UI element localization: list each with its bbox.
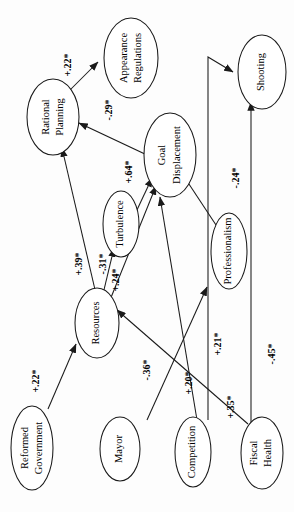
edge-label-fiscal-health-to-resources: +.35* <box>225 395 236 418</box>
edge-label-competition-to-shooting: +.21* <box>212 332 223 355</box>
node-label-fiscal-health-line1: Fiscal <box>248 440 259 465</box>
edge-label-rational-planning-to-appearance-regulations: +.22* <box>62 53 73 76</box>
node-label-rational-planning-line1: Rational <box>40 99 51 135</box>
edge-label-resources-to-rational-planning: +.39* <box>73 252 84 275</box>
edge-label-competition-to-goal-displacement: +.20* <box>183 371 194 394</box>
node-mayor[interactable]: Mayor <box>100 417 140 481</box>
node-label-reformed-government-line2: Government <box>33 422 44 475</box>
node-label-rational-planning-line2: Planning <box>54 98 65 136</box>
edge-label-goal-displacement-to-rational-planning: -.29* <box>103 100 114 121</box>
path-diagram-figure: Appearance Regulations Shooting Rational… <box>0 0 294 512</box>
node-label-goal-displacement-line1: Goal <box>156 145 167 165</box>
node-professionalism[interactable]: Professionalism <box>211 213 247 289</box>
node-label-professionalism-line1: Professionalism <box>222 217 233 284</box>
node-label-appearance-regulations-line1: Appearance <box>118 33 129 83</box>
node-label-mayor-line1: Mayor <box>113 435 124 463</box>
node-label-appearance-regulations-line2: Regulations <box>132 33 143 83</box>
node-label-shooting-line1: Shooting <box>255 52 266 91</box>
edge-label-professionalism-to-goal-displacement: -.24* <box>230 168 241 189</box>
edge-reformed-government-to-resources <box>48 344 76 409</box>
node-appearance-regulations[interactable]: Appearance Regulations <box>104 18 158 98</box>
node-label-goal-displacement-line2: Displacement <box>171 126 182 184</box>
edge-turbulence-to-goal-displacement <box>136 178 152 212</box>
node-fiscal-health[interactable]: Fiscal Health <box>241 417 283 489</box>
node-competition[interactable]: Competition <box>175 417 211 487</box>
node-shooting[interactable]: Shooting <box>238 35 286 109</box>
node-turbulence[interactable]: Turbulence <box>103 191 139 257</box>
node-resources[interactable]: Resources <box>75 288 119 358</box>
edge-label-reformed-government-to-resources: +.22* <box>30 369 41 392</box>
edge-label-resources-to-goal-displacement: +.24* <box>110 268 121 291</box>
node-label-resources-line1: Resources <box>90 301 101 344</box>
edge-label-resources-to-turbulence: -.31* <box>97 254 108 275</box>
node-label-reformed-government-line1: Reformed <box>19 426 30 469</box>
path-diagram-canvas: Appearance Regulations Shooting Rational… <box>0 0 294 512</box>
edge-mayor-to-professionalism <box>147 287 207 420</box>
node-label-turbulence-line1: Turbulence <box>114 200 125 248</box>
node-rational-planning[interactable]: Rational Planning <box>27 79 79 155</box>
node-label-competition-line1: Competition <box>186 425 197 478</box>
edge-label-turbulence-to-goal-displacement: +.64* <box>123 160 134 183</box>
node-reformed-government[interactable]: Reformed Government <box>11 406 53 490</box>
node-goal-displacement[interactable]: Goal Displacement <box>144 113 196 197</box>
edge-label-mayor-to-professionalism: -.36* <box>141 360 152 381</box>
edge-goal-displacement-to-rational-planning <box>79 123 147 155</box>
edge-label-fiscal-health-to-shooting: -.45* <box>266 344 277 365</box>
node-label-fiscal-health-line2: Health <box>262 438 273 467</box>
